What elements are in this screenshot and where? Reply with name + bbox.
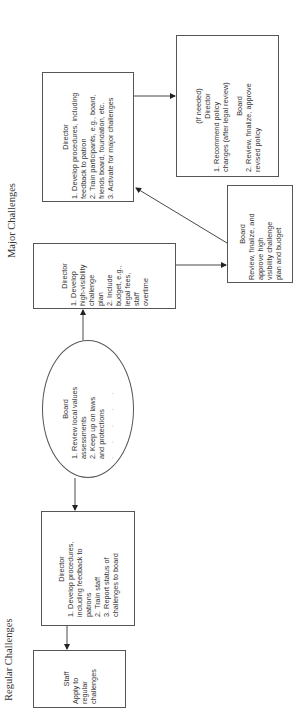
node-item: approve high [256, 188, 265, 280]
node-item: 3. Report status of [102, 521, 111, 617]
node-item: friends board, foundation, etc. [97, 75, 106, 199]
node-item: Review, finalize, and [247, 188, 256, 280]
node-item: Apply to [71, 654, 80, 704]
node-item: 2. Train participants, e.g., board, [88, 75, 97, 199]
node-item: 2. Include [105, 246, 114, 306]
node-item: staff [132, 246, 141, 306]
node-item: legal fees, [123, 246, 132, 306]
node-item: plan and budget [274, 188, 283, 280]
node-item: plan [96, 246, 105, 306]
node-item: challenge [87, 246, 96, 306]
node-item: challenges [89, 654, 98, 704]
node-director-budget: Director 1. Develop high-visibility chal… [33, 243, 176, 309]
node-title: Director [203, 40, 212, 172]
node-staff: Staff Apply to regular challenges [33, 650, 126, 708]
node-item: feedback to patron [79, 75, 88, 199]
node-title: Board [238, 188, 247, 280]
node-item: 3. Activate for major challenges [106, 75, 115, 199]
node-item: regular [80, 654, 89, 704]
node-item: 1. Review local values [70, 359, 79, 459]
node-title: Board [61, 359, 70, 459]
section-label-major-challenges: Major Challenges [6, 183, 17, 258]
node-item: 1. Recommend policy [212, 40, 221, 172]
node-item: challenges to board [111, 521, 120, 617]
node-item: patrons [84, 521, 93, 617]
section-label-regular-challenges: Regular Challenges [3, 618, 14, 701]
node-item: including feedback to [75, 521, 84, 617]
node-board-approve: Board Review, finalize, and approve high… [227, 185, 293, 283]
node-item: 1. Develop procedures, [66, 521, 75, 617]
node-title: Staff [62, 654, 71, 704]
node-item: 2. Keep up on laws [88, 359, 97, 459]
node-item: overtime [141, 246, 150, 306]
arrow-board-approve-to-director-major [136, 188, 227, 243]
node-title: Director [57, 521, 66, 617]
node-item: high-visibility [78, 246, 87, 306]
node-board-values: Board 1. Review local values assessments… [42, 340, 134, 478]
node-item: and protections [97, 359, 106, 459]
node-title: Director [60, 246, 69, 306]
node-item: revised policy [253, 40, 262, 172]
node-item: changes (after legal review) [221, 40, 230, 172]
node-director-regular: Director 1. Develop procedures, includin… [41, 511, 135, 626]
node-trailing-dots: . . . . . [106, 359, 115, 459]
node-item: 1. Develop procedures, including [70, 75, 79, 199]
node-director-major: Director 1. Develop procedures, includin… [42, 72, 134, 202]
node-item: budget, e.g., [114, 246, 123, 306]
node-note: (If needed) [194, 40, 203, 172]
node-item: 2. Review, finalize, approve [244, 40, 253, 172]
node-title: Board [235, 40, 244, 172]
node-policy-revision: (If needed) Director 1. Recommend policy… [176, 35, 279, 177]
node-title: Director [61, 75, 70, 199]
node-item: 1. Develop [69, 246, 78, 306]
node-item: visibility challenge [265, 188, 274, 280]
node-item: 2. Train staff [93, 521, 102, 617]
node-item: assessments [79, 359, 88, 459]
